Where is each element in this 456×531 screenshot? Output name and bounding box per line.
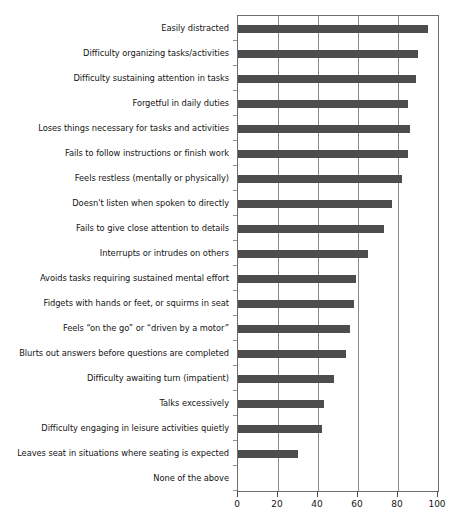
bar [238,300,354,308]
category-axis-labels: Easily distractedDifficulty organizing t… [0,15,233,490]
tick-mark [437,491,438,497]
category-label: Forgetful in daily duties [0,98,229,107]
bar [238,75,416,83]
tick-mark [277,491,278,497]
tick-label: 20 [271,499,282,510]
category-label: Loses things necessary for tasks and act… [0,123,229,132]
category-label: Leaves seat in situations where seating … [0,448,229,457]
category-label: Difficulty organizing tasks/activities [0,48,229,57]
bar [238,200,392,208]
value-axis-tick-marks [237,491,438,499]
tick-label: 60 [351,499,362,510]
tick-label: 100 [428,499,445,510]
value-axis-tick-labels: 020406080100 [237,499,438,513]
tick-label: 0 [234,499,240,510]
category-label: Fidgets with hands or feet, or squirms i… [0,298,229,307]
category-label: Difficulty sustaining attention in tasks [0,73,229,82]
bar [238,225,384,233]
category-label: None of the above [0,473,229,482]
bar [238,425,322,433]
horizontal-bar-chart: Easily distractedDifficulty organizing t… [0,0,456,531]
category-label: Avoids tasks requiring sustained mental … [0,273,229,282]
bar [238,275,356,283]
category-label: Doesn't listen when spoken to directly [0,198,229,207]
category-label: Fails to follow instructions or finish w… [0,148,229,157]
bar [238,450,298,458]
bar [238,125,410,133]
bar [238,250,368,258]
category-label: Difficulty awaiting turn (impatient) [0,373,229,382]
bar [238,350,346,358]
tick-label: 40 [311,499,322,510]
tick-mark [397,491,398,497]
bar [238,375,334,383]
plot-area [237,15,439,492]
category-label: Difficulty engaging in leisure activitie… [0,423,229,432]
bar [238,50,418,58]
category-label: Interrupts or intrudes on others [0,248,229,257]
bar [238,100,408,108]
tick-mark [237,491,238,497]
category-label: Feels “on the go” or “driven by a motor” [0,323,229,332]
tick-mark [317,491,318,497]
category-label: Easily distracted [0,23,229,32]
bar [238,175,402,183]
category-label: Feels restless (mentally or physically) [0,173,229,182]
tick-mark [357,491,358,497]
bar [238,325,350,333]
category-label: Fails to give close attention to details [0,223,229,232]
bars-layer [238,16,438,491]
category-label: Talks excessively [0,398,229,407]
category-label: Blurts out answers before questions are … [0,348,229,357]
tick-label: 80 [391,499,402,510]
bar [238,400,324,408]
bar [238,150,408,158]
bar [238,25,428,33]
